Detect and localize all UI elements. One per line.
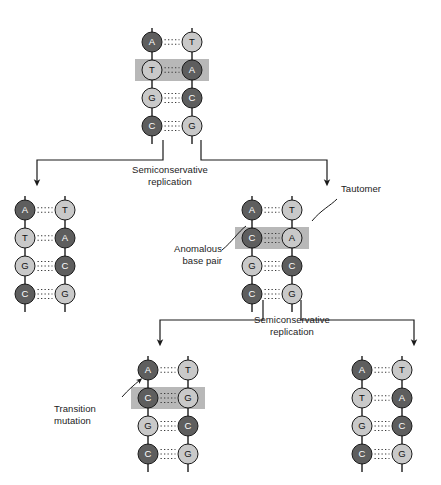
nucleotide-label-C: C xyxy=(249,288,256,299)
nucleotide-label-A: A xyxy=(145,364,152,375)
nucleotide-label-C: C xyxy=(399,420,406,431)
nucleotide-label-C: C xyxy=(185,420,192,431)
nucleotide-label-A: A xyxy=(249,204,256,215)
replication-label-1: Semiconservative replication xyxy=(110,164,230,187)
nucleotide-label-G: G xyxy=(398,448,405,459)
parent-dna: ATTAGCCG xyxy=(135,28,209,144)
nucleotide-label-G: G xyxy=(248,260,255,271)
nucleotide-label-T: T xyxy=(359,392,365,403)
nucleotide-label-G: G xyxy=(184,448,191,459)
transition-mutation-label: Transition mutation xyxy=(54,403,126,426)
nucleotide-label-C: C xyxy=(145,448,152,459)
nucleotide-label-G: G xyxy=(21,260,28,271)
daughter-right-tautomer-dna: ATCAGCCG xyxy=(235,196,309,312)
nucleotide-label-T: T xyxy=(399,364,405,375)
nucleotide-label-A: A xyxy=(399,392,406,403)
nucleotide-label-A: A xyxy=(289,232,296,243)
figure-canvas: ATTAGCCGATTAGCCGATCAGCCGATCGGCCGATTAGCCG… xyxy=(0,0,441,485)
nucleotide-label-C: C xyxy=(62,260,69,271)
nucleotide-label-T: T xyxy=(289,204,295,215)
nucleotide-label-G: G xyxy=(358,420,365,431)
nucleotide-label-T: T xyxy=(185,364,191,375)
nucleotide-label-C: C xyxy=(189,92,196,103)
nucleotide-label-G: G xyxy=(288,288,295,299)
nucleotide-label-G: G xyxy=(61,288,68,299)
replication-label-2: Semiconservative replication xyxy=(232,314,352,337)
nucleotide-label-C: C xyxy=(145,392,152,403)
nucleotide-label-A: A xyxy=(149,36,156,47)
nucleotide-label-G: G xyxy=(144,420,151,431)
nucleotide-label-G: G xyxy=(184,392,191,403)
daughter-left-dna: ATTAGCCG xyxy=(15,196,75,312)
tautomer-leader-line xyxy=(312,199,337,221)
nucleotide-label-G: G xyxy=(188,120,195,131)
nucleotide-label-A: A xyxy=(189,64,196,75)
nucleotide-label-T: T xyxy=(62,204,68,215)
grandchild-right-normal-dna: ATTAGCCG xyxy=(352,356,412,472)
anomalous-base-pair-label: Anomalous base pair xyxy=(152,243,222,266)
nucleotide-label-C: C xyxy=(289,260,296,271)
nucleotide-label-C: C xyxy=(359,448,366,459)
nucleotide-label-T: T xyxy=(189,36,195,47)
grandchild-left-mutant-dna: ATCGGCCG xyxy=(131,356,205,472)
nucleotide-label-G: G xyxy=(148,92,155,103)
nucleotide-label-A: A xyxy=(359,364,366,375)
nucleotide-label-C: C xyxy=(149,120,156,131)
nucleotide-label-C: C xyxy=(22,288,29,299)
nucleotide-label-A: A xyxy=(22,204,29,215)
nucleotide-label-C: C xyxy=(249,232,256,243)
nucleotide-label-A: A xyxy=(62,232,69,243)
nucleotide-label-T: T xyxy=(149,64,155,75)
tautomer-label: Tautomer xyxy=(341,183,411,195)
nucleotide-label-T: T xyxy=(22,232,28,243)
